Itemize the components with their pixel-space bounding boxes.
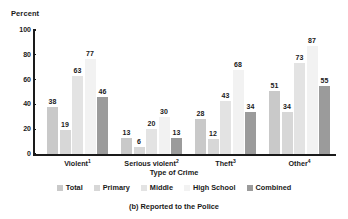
bar-column[interactable]: 13 (121, 30, 132, 154)
legend-label: Middle (150, 183, 173, 192)
bar-column[interactable]: 13 (171, 30, 182, 154)
bar-value-label: 34 (283, 102, 291, 111)
bar-column[interactable]: 51 (269, 30, 280, 154)
bar-column[interactable]: 87 (307, 30, 318, 154)
bar-value-label: 77 (86, 49, 94, 58)
bar[interactable] (233, 70, 244, 154)
bar[interactable] (121, 138, 132, 154)
x-axis-title: Type of Crime (0, 168, 348, 177)
bar-column[interactable]: 55 (319, 30, 330, 154)
bar-group: 2812436834 (195, 30, 256, 154)
bar[interactable] (134, 147, 145, 154)
bar-value-label: 46 (99, 87, 107, 96)
bar[interactable] (282, 112, 293, 154)
bar-value-label: 34 (247, 102, 255, 111)
legend-label: High School (193, 183, 236, 192)
bar[interactable] (159, 117, 170, 154)
bar-value-label: 30 (160, 107, 168, 116)
bar[interactable] (72, 76, 83, 154)
bar-value-label: 63 (74, 66, 82, 75)
bar[interactable] (85, 59, 96, 154)
bar[interactable] (60, 130, 71, 154)
legend-item[interactable]: Total (57, 183, 83, 192)
bar-value-label: 87 (308, 36, 316, 45)
bar[interactable] (294, 63, 305, 154)
bar[interactable] (208, 139, 219, 154)
bar-value-label: 68 (234, 60, 242, 69)
legend-swatch-icon (184, 185, 190, 191)
bar-value-label: 43 (222, 91, 230, 100)
bar-column[interactable]: 63 (72, 30, 83, 154)
legend-label: Combined (256, 183, 292, 192)
bar-column[interactable]: 34 (282, 30, 293, 154)
bar-value-label: 51 (271, 81, 279, 90)
bar[interactable] (195, 119, 206, 154)
figure-caption: (b) Reported to the Police (0, 202, 348, 211)
bar-value-label: 73 (296, 53, 304, 62)
bar-value-label: 28 (197, 109, 205, 118)
bar-value-label: 20 (148, 119, 156, 128)
bar-group: 5134738755 (269, 30, 330, 154)
y-axis-tick-label: 60 (9, 75, 31, 85)
bar[interactable] (307, 46, 318, 154)
bar-value-label: 12 (209, 129, 217, 138)
bar-value-label: 38 (49, 97, 57, 106)
legend-item[interactable]: Combined (247, 183, 292, 192)
bar-value-label: 13 (173, 128, 181, 137)
bar[interactable] (319, 86, 330, 154)
y-axis-tick-label: 20 (9, 124, 31, 134)
bar[interactable] (220, 101, 231, 154)
legend-swatch-icon (247, 185, 253, 191)
y-axis-tick-label: 80 (9, 50, 31, 60)
legend-swatch-icon (94, 185, 100, 191)
legend-item[interactable]: Middle (141, 183, 173, 192)
bar[interactable] (269, 91, 280, 154)
y-axis-tick-label: 0 (9, 149, 31, 159)
x-axis-category-label: Other4 (249, 159, 348, 168)
plot-area: 020406080100 381963774613620301328124368… (33, 30, 336, 154)
legend-item[interactable]: Primary (94, 183, 130, 192)
bar-column[interactable]: 43 (220, 30, 231, 154)
bar-column[interactable]: 28 (195, 30, 206, 154)
legend-label: Primary (103, 183, 130, 192)
chart-legend: TotalPrimaryMiddleHigh SchoolCombined (0, 183, 348, 192)
bar-column[interactable]: 46 (97, 30, 108, 154)
bar-column[interactable]: 20 (146, 30, 157, 154)
bar-column[interactable]: 77 (85, 30, 96, 154)
bar-value-label: 55 (321, 76, 329, 85)
bar-column[interactable]: 12 (208, 30, 219, 154)
bar-column[interactable]: 19 (60, 30, 71, 154)
legend-item[interactable]: High School (184, 183, 236, 192)
bar-value-label: 13 (123, 128, 131, 137)
y-axis-tick-label: 40 (9, 99, 31, 109)
bar-column[interactable]: 73 (294, 30, 305, 154)
bar-group: 136203013 (121, 30, 182, 154)
bar-column[interactable]: 68 (233, 30, 244, 154)
y-axis-tick-label: 100 (9, 25, 31, 35)
bar[interactable] (171, 138, 182, 154)
y-axis-title: Percent (11, 9, 39, 18)
bar[interactable] (97, 97, 108, 154)
bar[interactable] (146, 129, 157, 154)
bar-value-label: 19 (61, 120, 69, 129)
x-axis-line (33, 154, 336, 156)
bar[interactable] (47, 107, 58, 154)
legend-swatch-icon (141, 185, 147, 191)
bar-groups: 381963774613620301328124368345134738755 (33, 30, 336, 154)
bar-chart-figure: Percent 020406080100 3819637746136203013… (0, 0, 348, 219)
bar-column[interactable]: 34 (245, 30, 256, 154)
legend-swatch-icon (57, 185, 63, 191)
bar-column[interactable]: 30 (159, 30, 170, 154)
bar-group: 3819637746 (47, 30, 108, 154)
bar[interactable] (245, 112, 256, 154)
bar-column[interactable]: 6 (134, 30, 145, 154)
bar-value-label: 6 (137, 137, 141, 146)
legend-label: Total (66, 183, 83, 192)
bar-column[interactable]: 38 (47, 30, 58, 154)
